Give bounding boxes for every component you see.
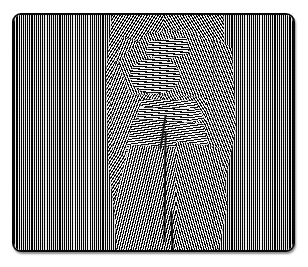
line-grating-field bbox=[14, 15, 293, 250]
field-edge-right bbox=[213, 25, 214, 250]
field-edge-left bbox=[102, 25, 103, 250]
image-canvas bbox=[0, 0, 308, 267]
framed-plate bbox=[12, 13, 295, 252]
